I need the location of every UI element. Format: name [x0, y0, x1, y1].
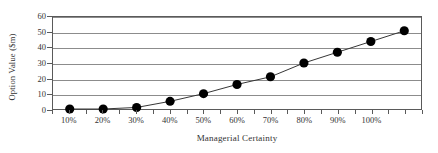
x-axis-tick-label: 100%: [352, 115, 392, 126]
x-axis-tick-mark: [203, 110, 204, 114]
data-point-marker: [166, 97, 175, 106]
x-axis-tick-mark: [170, 110, 171, 114]
x-axis-tick-mark: [102, 110, 103, 114]
x-axis-tick-mark: [338, 110, 339, 114]
data-point-marker: [199, 89, 208, 98]
data-point-marker: [333, 48, 342, 57]
x-axis-tick-mark: [119, 110, 120, 114]
y-axis-tick-label: 50: [22, 27, 46, 36]
x-axis-tick-mark: [271, 110, 272, 114]
x-axis-tick-mark: [304, 110, 305, 114]
x-axis-tick-mark: [52, 110, 53, 114]
series-line: [70, 31, 405, 109]
x-axis-tick-mark: [220, 110, 221, 114]
data-point-marker: [366, 37, 375, 46]
chart-figure: Option Value ($m) 0102030405060 10%20%30…: [0, 0, 438, 153]
series-option-value: [53, 17, 421, 109]
y-axis-title: Option Value ($m): [7, 17, 17, 117]
y-axis-tick-label: 60: [22, 12, 46, 21]
x-axis-tick-mark: [422, 110, 423, 114]
data-point-marker: [266, 72, 275, 81]
x-axis-tick-mark: [287, 110, 288, 114]
y-axis-tick-label: 40: [22, 43, 46, 52]
x-axis-tick-mark: [187, 110, 188, 114]
x-axis-tick-labels: 10%20%30%40%50%60%70%80%90%100%: [52, 115, 422, 127]
y-axis-tick-label: 10: [22, 90, 46, 99]
series-markers: [65, 26, 409, 113]
x-axis-tick-mark: [86, 110, 87, 114]
x-axis-title: Managerial Certainty: [52, 133, 422, 143]
data-point-marker: [232, 80, 241, 89]
x-axis-tick-mark: [136, 110, 137, 114]
data-point-marker: [400, 26, 409, 35]
x-axis-tick-mark: [321, 110, 322, 114]
x-axis-tick-mark: [254, 110, 255, 114]
y-axis-tick-label: 20: [22, 74, 46, 83]
x-axis-tick-mark: [237, 110, 238, 114]
y-axis-tick-label: 0: [22, 106, 46, 115]
x-axis-tick-mark: [355, 110, 356, 114]
x-axis-tick-mark: [69, 110, 70, 114]
x-axis-tick-mark: [153, 110, 154, 114]
data-point-marker: [299, 58, 308, 67]
x-axis-tick-mark: [388, 110, 389, 114]
x-axis-tick-mark: [372, 110, 373, 114]
y-axis-tick-label: 30: [22, 59, 46, 68]
plot-area: [52, 16, 422, 110]
y-axis-tick-labels: 0102030405060: [22, 12, 46, 112]
x-axis-tick-mark: [405, 110, 406, 114]
x-axis-tick-marks: [52, 110, 422, 114]
